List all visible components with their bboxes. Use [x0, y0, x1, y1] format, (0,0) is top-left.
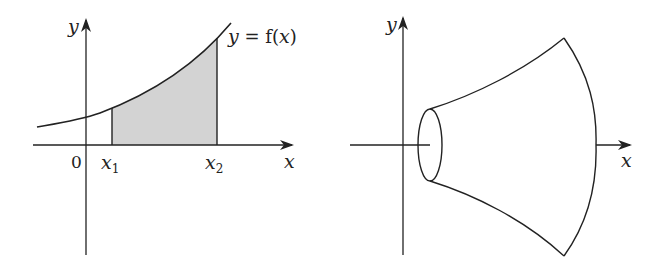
- right-figure-solid-of-revolution: y x: [350, 13, 632, 256]
- large-end-arc: [564, 38, 596, 256]
- left-figure-area-under-curve: y x 0 x1 x2 y = f(x): [33, 15, 297, 255]
- curve-label: y = f(x): [227, 25, 297, 47]
- y-axis-label: y: [67, 15, 79, 37]
- x-axis-label: x: [621, 149, 632, 171]
- bottom-profile-curve: [430, 181, 564, 256]
- x2-label: x2: [205, 151, 223, 176]
- origin-label: 0: [71, 152, 82, 172]
- top-profile-curve: [430, 38, 564, 109]
- y-axis-label: y: [385, 13, 397, 35]
- x1-label: x1: [101, 151, 119, 176]
- diagram-canvas: y x 0 x1 x2 y = f(x) y x: [0, 0, 652, 279]
- x-axis-label: x: [284, 150, 295, 172]
